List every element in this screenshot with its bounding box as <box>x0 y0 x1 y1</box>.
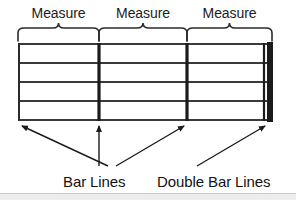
leader-double-bar-lines <box>197 126 265 166</box>
brace-measure-2 <box>99 23 187 41</box>
bottom-band <box>0 193 296 200</box>
music-notation-diagram: Measure Measure Measure Bar Lines Double… <box>0 0 296 200</box>
measure-label-2: Measure <box>99 5 187 22</box>
diagram-canvas <box>0 0 296 200</box>
caption-double-bar-lines: Double Bar Lines <box>157 172 270 191</box>
double-bar-lines <box>264 42 270 122</box>
caption-bar-lines: Bar Lines <box>63 172 125 191</box>
brace-measure-1 <box>18 23 99 41</box>
leader-bar-lines-right <box>116 126 184 166</box>
measure-label-1: Measure <box>18 5 99 22</box>
brace-measure-3 <box>187 23 272 41</box>
measure-label-3: Measure <box>187 5 272 22</box>
measure-braces <box>18 23 272 41</box>
staff-lines <box>18 44 272 120</box>
leader-bar-lines-left <box>22 126 108 166</box>
callout-leaders <box>22 126 265 166</box>
